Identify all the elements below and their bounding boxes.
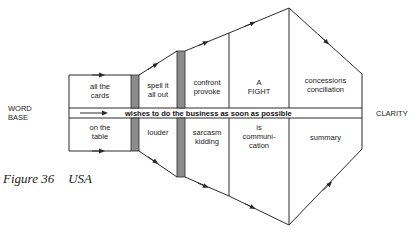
figure-caption: Figure 36USA — [3, 171, 106, 187]
upper-cell-1: all the cards — [70, 82, 130, 100]
upper-cell-3: confront provoke — [185, 78, 229, 96]
lower-cell-1: on the table — [70, 123, 130, 141]
left-label-word-base: WORD BASE — [8, 104, 32, 122]
figure-title: USA — [68, 171, 92, 186]
lower-cell-4: is communi- cation — [229, 123, 289, 150]
right-label-clarity: CLARITY — [376, 109, 408, 118]
upper-cell-2: spell it all out — [139, 81, 177, 99]
lower-cell-3: sarcasm kidding — [185, 128, 229, 146]
upper-cell-4: A FIGHT — [229, 78, 289, 96]
lower-cell-5: summary — [289, 133, 362, 142]
upper-cell-5: concessions conciliation — [289, 76, 362, 94]
figure-number: Figure 36 — [3, 171, 54, 186]
lower-cell-2: louder — [139, 128, 177, 137]
band-label: wishes to do the business as soon as pos… — [125, 109, 292, 118]
